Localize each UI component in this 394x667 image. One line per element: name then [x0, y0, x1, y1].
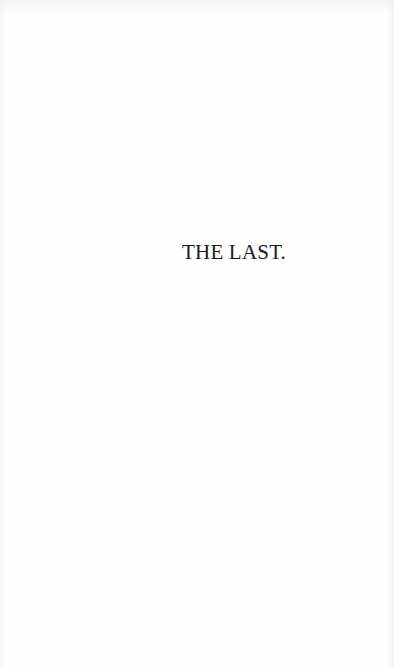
page-edge-left — [0, 0, 6, 667]
page-title: THE LAST. — [182, 240, 286, 264]
book-page: THE LAST. — [0, 0, 394, 667]
scan-bleed-through — [0, 0, 394, 14]
page-edge-right — [386, 0, 394, 667]
